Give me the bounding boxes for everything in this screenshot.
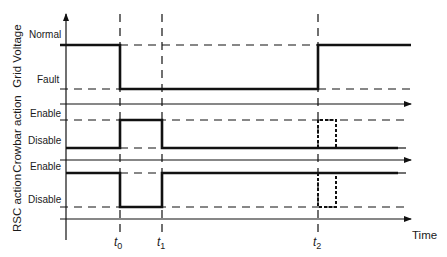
crowbar-enable-label: Enable — [30, 108, 62, 119]
grid-voltage-panel — [60, 45, 411, 104]
rsc-disable-label: Disable — [28, 194, 62, 205]
rsc-axis-label: RSC action — [11, 174, 23, 232]
grid-voltage-axis-label: Grid Voltage — [11, 24, 23, 87]
timing-diagram: Grid Voltage Crowbar action RSC action N… — [0, 0, 447, 257]
t2-label: t2 — [313, 235, 321, 251]
crowbar-panel — [60, 120, 411, 160]
t0-label: t0 — [114, 235, 122, 251]
rsc-panel — [60, 173, 411, 219]
crowbar-disable-label: Disable — [28, 135, 62, 146]
crowbar-optional-pulse — [318, 120, 336, 148]
grid-fault-label: Fault — [37, 74, 59, 85]
crowbar-waveform — [66, 120, 398, 148]
rsc-enable-label: Enable — [30, 161, 62, 172]
grid-normal-label: Normal — [29, 29, 61, 40]
rsc-waveform — [66, 173, 398, 207]
crowbar-axis-label: Crowbar action — [11, 95, 23, 172]
grid-voltage-waveform — [60, 45, 411, 89]
t1-label: t1 — [157, 235, 165, 251]
time-axis-label: Time — [412, 229, 437, 241]
rsc-optional-pulse — [318, 173, 336, 207]
